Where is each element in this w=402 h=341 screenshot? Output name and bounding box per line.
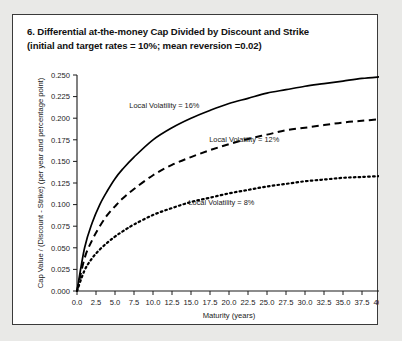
y-axis-tick-label: 0.125	[51, 179, 70, 188]
x-axis-tick-label: 25.0	[260, 298, 275, 307]
x-axis-tick-label: 7.5	[129, 298, 140, 307]
x-axis-tick-label: 12.5	[165, 298, 180, 307]
x-axis-title: Maturity (years)	[203, 311, 256, 320]
x-axis-tick-label: 20.0	[222, 298, 237, 307]
y-axis-tick-label: 0.100	[51, 200, 70, 209]
y-axis-tick-label: 0.025	[51, 265, 70, 274]
x-axis-tick-label: 15.0	[184, 298, 199, 307]
x-axis-tick-label: 10.0	[146, 298, 161, 307]
y-axis-tick-label: 0.000	[51, 287, 70, 296]
x-axis-tick-label: 0.0	[72, 298, 83, 307]
y-axis-tick-label: 0.075	[51, 222, 70, 231]
x-axis-tick-label: 22.5	[241, 298, 256, 307]
series-label-2: Local Volatility = 12%	[209, 135, 279, 144]
y-axis-tick-label: 0.175	[51, 136, 70, 145]
line-chart: 0.0000.0250.0500.0750.1000.1250.1500.175…	[13, 15, 379, 326]
series-label-3: Local Volatility = 8%	[188, 198, 254, 207]
x-axis-tick-label: 30.0	[298, 298, 313, 307]
x-axis-tick-label: 40.0	[374, 298, 379, 307]
x-axis-tick-label: 35.0	[336, 298, 351, 307]
chart-axes	[77, 75, 379, 291]
y-axis-tick-label: 0.050	[51, 244, 70, 253]
series-label-1: Local Volatility = 16%	[129, 101, 199, 110]
chart-plot-area: 0.0000.0250.0500.0750.1000.1250.1500.175…	[13, 15, 379, 326]
x-axis-tick-label: 37.5	[355, 298, 370, 307]
y-axis-tick-label: 0.200	[51, 114, 70, 123]
y-axis-tick-label: 0.225	[51, 92, 70, 101]
x-axis-tick-label: 27.5	[279, 298, 294, 307]
x-axis-tick-label: 5.0	[110, 298, 121, 307]
y-axis-title: Cap Value / (Discount - Strike) (per yea…	[36, 77, 45, 288]
y-axis-tick-label: 0.150	[51, 157, 70, 166]
series-line-3	[77, 176, 379, 291]
series-line-1	[77, 77, 379, 291]
x-axis-tick-label: 2.5	[91, 298, 102, 307]
x-axis-tick-label: 32.5	[317, 298, 332, 307]
figure-panel: 6. Differential at-the-money Cap Divided…	[12, 14, 378, 325]
y-axis-tick-label: 0.250	[51, 71, 70, 80]
x-axis-tick-label: 17.5	[203, 298, 218, 307]
